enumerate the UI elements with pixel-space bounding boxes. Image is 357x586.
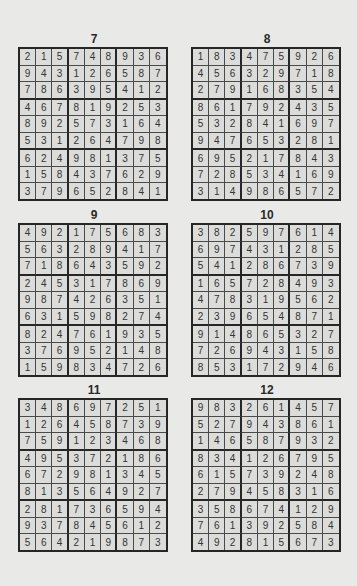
grid-cell: 9: [150, 417, 166, 434]
grid-cell: 2: [150, 82, 166, 100]
grid-cell: 7: [52, 518, 68, 535]
grid-cell: 2: [20, 501, 36, 518]
grid-cell: 7: [150, 484, 166, 502]
grid-cell: 6: [209, 276, 225, 293]
grid-cell: 4: [20, 100, 36, 117]
grid-cell: 4: [225, 326, 241, 343]
grid-cell: 4: [323, 225, 339, 242]
grid-cell: 6: [274, 183, 290, 199]
grid-cell: 5: [69, 484, 85, 502]
grid-cell: 7: [193, 167, 209, 184]
grid-cell: 6: [36, 534, 52, 550]
grid-cell: 6: [20, 150, 36, 167]
grid-cell: 2: [52, 467, 68, 484]
puzzle-12: 12 9832614575279438611465879328341267956…: [191, 382, 343, 552]
grid-cell: 6: [193, 242, 209, 259]
grid-cell: 3: [20, 343, 36, 360]
grid-cell: 9: [36, 225, 52, 242]
grid-cell: 3: [101, 258, 117, 276]
grid-cell: 2: [36, 150, 52, 167]
grid-cell: 3: [307, 100, 323, 117]
grid-cell: 1: [225, 518, 241, 535]
grid-cell: 2: [274, 518, 290, 535]
grid-cell: 6: [274, 451, 290, 468]
grid-cell: 7: [69, 501, 85, 518]
grid-cell: 7: [242, 467, 258, 484]
grid-cell: 6: [323, 359, 339, 375]
grid-cell: 6: [323, 484, 339, 502]
grid-cell: 1: [323, 417, 339, 434]
puzzle-11: 11 3486972511264587397591234684953721866…: [18, 382, 170, 552]
grid-cell: 9: [52, 359, 68, 375]
grid-cell: 8: [209, 225, 225, 242]
grid-cell: 2: [290, 242, 306, 259]
grid-cell: 4: [209, 133, 225, 151]
grid-cell: 1: [274, 400, 290, 417]
grid-cell: 5: [117, 258, 133, 276]
grid-cell: 6: [193, 467, 209, 484]
grid-cell: 8: [101, 309, 117, 327]
grid-cell: 6: [225, 66, 241, 83]
grid-cell: 5: [134, 100, 150, 117]
grid-cell: 3: [150, 225, 166, 242]
puzzle-title: 9: [18, 207, 170, 223]
grid-cell: 6: [290, 116, 306, 133]
grid-cell: 6: [150, 49, 166, 66]
grid-cell: 9: [307, 116, 323, 133]
grid-cell: 5: [323, 100, 339, 117]
grid-cell: 8: [117, 183, 133, 199]
grid-cell: 5: [323, 242, 339, 259]
grid-cell: 8: [258, 258, 274, 276]
grid-cell: 2: [274, 100, 290, 117]
grid-cell: 8: [307, 242, 323, 259]
grid-cell: 9: [193, 400, 209, 417]
grid-cell: 1: [134, 518, 150, 535]
grid-cell: 4: [307, 467, 323, 484]
grid-cell: 3: [242, 518, 258, 535]
grid-cell: 3: [225, 49, 241, 66]
grid-cell: 4: [69, 292, 85, 309]
grid-cell: 8: [290, 309, 306, 327]
grid-cell: 2: [20, 49, 36, 66]
grid-cell: 8: [69, 518, 85, 535]
grid-cell: 8: [69, 100, 85, 117]
grid-cell: 7: [225, 242, 241, 259]
grid-cell: 8: [117, 276, 133, 293]
grid-cell: 7: [52, 100, 68, 117]
grid-cell: 6: [209, 518, 225, 535]
grid-cell: 6: [69, 258, 85, 276]
grid-cell: 3: [134, 49, 150, 66]
grid-cell: 9: [290, 433, 306, 451]
puzzle-8: 8 18347592645632971827916835486179243553…: [191, 31, 343, 201]
puzzle-10: 10 3825976146974312855412867391657284934…: [191, 207, 343, 377]
grid-cell: 1: [150, 292, 166, 309]
grid-cell: 3: [85, 167, 101, 184]
grid-cell: 4: [101, 133, 117, 151]
grid-cell: 9: [274, 66, 290, 83]
grid-cell: 6: [52, 417, 68, 434]
grid-cell: 8: [134, 66, 150, 83]
grid-cell: 7: [225, 133, 241, 151]
grid-cell: 5: [134, 292, 150, 309]
grid-cell: 7: [117, 133, 133, 151]
grid-cell: 4: [150, 116, 166, 133]
grid-cell: 9: [323, 501, 339, 518]
grid-cell: 5: [150, 326, 166, 343]
grid-cell: 2: [101, 183, 117, 199]
grid-cell: 7: [20, 433, 36, 451]
grid-cell: 8: [209, 400, 225, 417]
grid-cell: 1: [20, 417, 36, 434]
grid-cell: 7: [20, 82, 36, 100]
grid-cell: 6: [274, 258, 290, 276]
grid-cell: 7: [69, 326, 85, 343]
grid-cell: 2: [85, 433, 101, 451]
grid-cell: 2: [242, 150, 258, 167]
grid-cell: 8: [290, 150, 306, 167]
grid-cell: 3: [290, 82, 306, 100]
grid-cell: 5: [193, 258, 209, 276]
grid-cell: 5: [258, 309, 274, 327]
grid-cell: 2: [117, 100, 133, 117]
grid-cell: 4: [69, 167, 85, 184]
grid-cell: 6: [117, 518, 133, 535]
grid-cell: 6: [52, 82, 68, 100]
